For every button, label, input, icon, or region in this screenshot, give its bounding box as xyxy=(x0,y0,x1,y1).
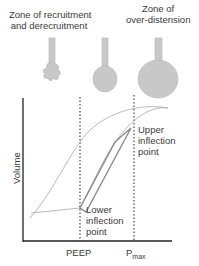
x-tick-pmax: Pmax xyxy=(126,247,146,259)
zone-recruitment-line1: Zone of recruitment xyxy=(9,9,89,20)
x-tick-peep: PEEP xyxy=(66,247,91,258)
y-axis-label: Volume xyxy=(11,152,22,184)
lower-inflection-line3: point xyxy=(86,226,124,237)
zone-overdistension-label: Zone of over-distension xyxy=(126,3,190,25)
lower-inflection-line2: inflection xyxy=(86,215,124,226)
upper-inflection-line3: point xyxy=(138,146,176,157)
pmax-subscript: max xyxy=(132,253,145,260)
lower-inflection-label: Lower inflection point xyxy=(86,204,124,237)
upper-inflection-line2: inflection xyxy=(138,135,176,146)
zone-recruitment-label: Zone of recruitment and derecruitment xyxy=(9,9,89,31)
zone-recruitment-line2: and derecruitment xyxy=(9,20,89,31)
lower-inflection-line1: Lower xyxy=(86,204,124,215)
collapsed-alveolus-icon xyxy=(43,38,60,81)
normal-alveolus-icon xyxy=(93,38,117,92)
upper-inflection-label: Upper inflection point xyxy=(138,124,176,157)
overdistended-alveolus-icon xyxy=(138,38,178,98)
zone-overdistension-line1: Zone of xyxy=(126,3,190,14)
tidal-loop xyxy=(80,128,131,212)
upper-inflection-line1: Upper xyxy=(138,124,176,135)
zone-overdistension-line2: over-distension xyxy=(126,14,190,25)
